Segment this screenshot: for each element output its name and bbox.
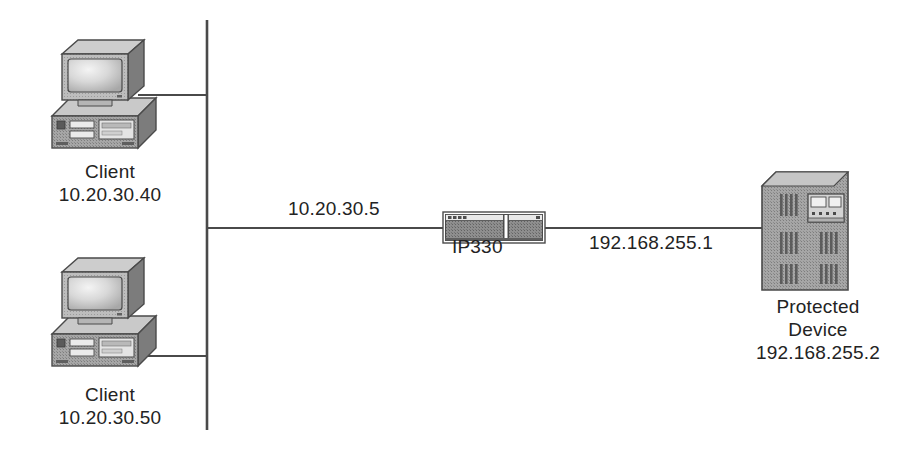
node-label-client-top: Client 10.20.30.40 — [10, 160, 210, 206]
network-diagram-canvas: Client 10.20.30.40 Client 10.20.30.50 Pr… — [0, 0, 920, 456]
client-bottom-ip: 10.20.30.50 — [10, 406, 210, 429]
node-label-ip330: IP330 — [452, 236, 503, 258]
link-label-wan-ip: 192.168.255.1 — [589, 232, 713, 254]
link-label-lan-trunk-ip: 10.20.30.5 — [288, 198, 380, 220]
desktop-computer-icon-bottom — [52, 258, 156, 366]
client-top-name: Client — [10, 160, 210, 183]
protected-device-ip: 192.168.255.2 — [718, 341, 918, 364]
client-top-ip: 10.20.30.40 — [10, 183, 210, 206]
protected-device-name-line1: Protected — [718, 295, 918, 318]
protected-device-name-line2: Device — [718, 318, 918, 341]
node-label-protected-device: Protected Device 192.168.255.2 — [718, 295, 918, 364]
server-tower-icon — [762, 172, 848, 290]
client-bottom-name: Client — [10, 383, 210, 406]
node-label-client-bottom: Client 10.20.30.50 — [10, 383, 210, 429]
